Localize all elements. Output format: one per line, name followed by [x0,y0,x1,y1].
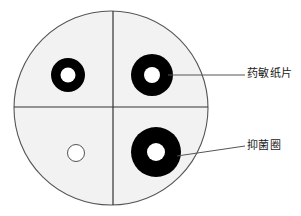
antibiotic-disc-lower-left [68,145,85,162]
label-inhibition-zone: 抑菌圈 [247,139,281,151]
agar-plate-diagram [0,0,301,216]
antibiotic-disc-upper-left [61,68,76,83]
antibiotic-disc-upper-right [144,67,160,83]
petri-plate-circle [14,11,208,205]
antibiotic-disc-lower-right [147,143,165,161]
label-antibiotic-disc: 药敏纸片 [247,67,292,79]
